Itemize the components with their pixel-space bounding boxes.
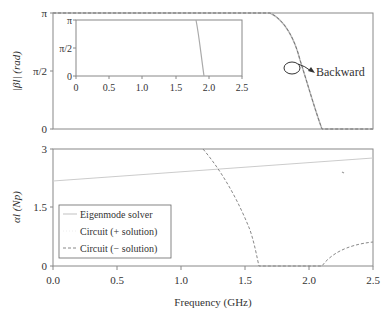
chart-figure: π π/2 0 |βl| (rad) Backward π π/2 0 0 bbox=[0, 0, 391, 320]
inset-plot: π π/2 0 0 0.5 1.0 1.5 2.0 2.5 bbox=[59, 15, 248, 93]
top-ytick-half-pi: π/2 bbox=[33, 65, 47, 77]
svg-text:0.5: 0.5 bbox=[103, 82, 116, 93]
top-ytick-pi: π bbox=[41, 7, 47, 19]
svg-text:2.5: 2.5 bbox=[366, 274, 380, 286]
backward-annotation: Backward bbox=[316, 65, 365, 79]
svg-text:1.0: 1.0 bbox=[174, 274, 188, 286]
svg-text:0: 0 bbox=[74, 82, 79, 93]
svg-text:π: π bbox=[67, 15, 72, 26]
svg-text:0: 0 bbox=[42, 260, 48, 272]
svg-text:2.0: 2.0 bbox=[203, 82, 216, 93]
bottom-circuit-minus-curve bbox=[203, 149, 373, 266]
svg-text:0.5: 0.5 bbox=[110, 274, 124, 286]
svg-text:3: 3 bbox=[42, 143, 48, 155]
legend-eigenmode: Eigenmode solver bbox=[80, 209, 153, 220]
svg-text:π/2: π/2 bbox=[59, 43, 72, 54]
svg-text:1.5: 1.5 bbox=[170, 82, 183, 93]
bottom-circuit-plus-points bbox=[342, 172, 344, 173]
svg-text:1.5: 1.5 bbox=[238, 274, 252, 286]
svg-text:2.5: 2.5 bbox=[236, 82, 249, 93]
xlabel: Frequency (GHz) bbox=[174, 296, 252, 309]
legend-circuit-plus: Circuit (+ solution) bbox=[80, 226, 157, 238]
legend: Eigenmode solver Circuit (+ solution) Ci… bbox=[59, 205, 171, 258]
svg-text:1.5: 1.5 bbox=[33, 201, 47, 213]
svg-text:0.0: 0.0 bbox=[46, 274, 60, 286]
top-panel: π π/2 0 |βl| (rad) Backward π π/2 0 0 bbox=[10, 7, 373, 135]
bottom-panel: 3 1.5 0 αl (Np) 0.0 0.5 1.0 1.5 2.0 2.5 … bbox=[10, 143, 380, 309]
svg-text:2.0: 2.0 bbox=[302, 274, 316, 286]
backward-marker-circle bbox=[284, 62, 300, 74]
svg-text:1.0: 1.0 bbox=[136, 82, 149, 93]
top-ylabel: |βl| (rad) bbox=[10, 51, 23, 91]
arrow-icon bbox=[308, 67, 315, 73]
legend-circuit-minus: Circuit (− solution) bbox=[80, 243, 157, 255]
top-ytick-zero: 0 bbox=[42, 123, 48, 135]
svg-text:0: 0 bbox=[67, 71, 72, 82]
bottom-ylabel: αl (Np) bbox=[10, 191, 23, 223]
